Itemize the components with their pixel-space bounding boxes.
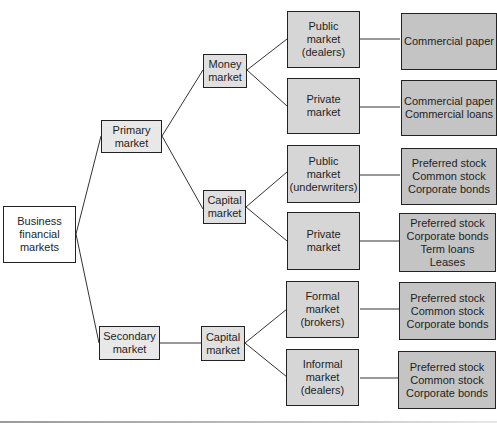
node-money-market: Money market: [203, 54, 247, 88]
node-public-market-underwriters: Public market (underwriters): [287, 145, 360, 203]
node-capital-market-secondary: Capital market: [201, 326, 245, 361]
node-instruments-public-underwriters: Preferred stock Common stock Corporate b…: [401, 148, 497, 205]
node-capital-market-primary: Capital market: [203, 190, 246, 224]
node-business-financial-markets: Business financial markets: [3, 206, 76, 263]
node-informal-market-dealers: Informal market (dealers): [286, 349, 359, 406]
node-instruments-public-dealers: Commercial paper: [401, 13, 497, 70]
node-private-market-money: Private market: [287, 78, 360, 134]
node-secondary-market: Secondary market: [99, 326, 160, 360]
node-public-market-dealers: Public market (dealers): [287, 11, 360, 68]
node-private-market-capital: Private market: [287, 212, 360, 270]
node-formal-market-brokers: Formal market (brokers): [286, 281, 359, 338]
node-instruments-formal-brokers: Preferred stock Common stock Corporate b…: [399, 282, 496, 340]
node-instruments-informal-dealers: Preferred stock Common stock Corporate b…: [398, 351, 496, 409]
financial-markets-diagram: Business financial markets Primary marke…: [0, 0, 497, 423]
node-instruments-private-money: Commercial paper Commercial loans: [401, 80, 497, 136]
node-primary-market: Primary market: [101, 120, 162, 153]
node-instruments-private-capital: Preferred stock Corporate bonds Term loa…: [399, 213, 496, 272]
